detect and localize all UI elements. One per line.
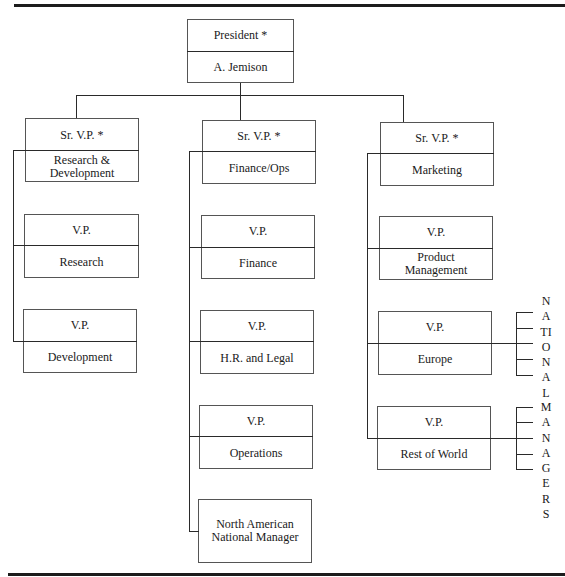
box-name: Research & Development	[26, 152, 138, 182]
connector	[189, 341, 314, 342]
national-label: NATIONAL	[540, 294, 552, 401]
bracket-tick	[516, 343, 533, 344]
box-title: V.P.	[201, 311, 313, 342]
srvp-marketing-box: Sr. V.P. * Marketing	[380, 122, 494, 186]
box-title: Sr. V.P. *	[381, 123, 493, 154]
spine-marketing	[367, 153, 368, 439]
connector	[189, 436, 313, 437]
box-name: Marketing	[381, 155, 493, 185]
connector	[13, 245, 139, 246]
box-title: Sr. V.P. *	[203, 121, 315, 152]
box-name: Finance	[202, 248, 314, 278]
bracket-tick	[516, 375, 533, 376]
managers-label: MANAGERS	[540, 400, 552, 522]
connector	[403, 95, 404, 123]
box-name: Operations	[200, 438, 312, 468]
box-name: Development	[24, 342, 136, 372]
bracket-tick	[516, 407, 533, 408]
box-title: V.P.	[378, 407, 490, 438]
spine-rd	[13, 150, 139, 151]
box-name: Product Management	[380, 249, 492, 279]
spine-rd	[13, 150, 14, 342]
top-rule	[14, 4, 565, 7]
connector	[189, 531, 199, 532]
bracket-tick	[516, 312, 533, 313]
president-box: President * A. Jemison	[187, 19, 294, 83]
box-title: V.P.	[200, 406, 312, 437]
bracket-tick	[516, 422, 533, 423]
connector	[367, 343, 517, 344]
box-name: Rest of World	[378, 439, 490, 469]
president-name: A. Jemison	[188, 52, 293, 82]
bracket-tick	[516, 328, 533, 329]
box-title: Sr. V.P. *	[26, 119, 138, 151]
box-name: Europe	[379, 344, 491, 374]
box-title: V.P.	[24, 310, 136, 341]
vp-hr-legal-box: V.P. H.R. and Legal	[200, 310, 314, 374]
box-name: H.R. and Legal	[201, 343, 313, 373]
connector	[240, 95, 241, 121]
bracket-tick	[516, 454, 533, 455]
connector	[13, 341, 137, 342]
president-title: President *	[188, 20, 293, 51]
box-name: North American National Manager	[199, 500, 311, 562]
box-name: Research	[25, 247, 138, 277]
box-title: V.P.	[25, 215, 138, 246]
bracket-tick	[516, 438, 533, 439]
connector	[367, 438, 517, 439]
na-national-manager-box: North American National Manager	[198, 499, 312, 563]
bracket-tick	[516, 359, 533, 360]
spine-marketing	[367, 153, 494, 154]
connector	[189, 247, 315, 248]
srvp-finops-box: Sr. V.P. * Finance/Ops	[202, 120, 316, 184]
box-title: V.P.	[380, 217, 492, 248]
box-title: V.P.	[379, 312, 491, 343]
bottom-rule	[8, 573, 565, 576]
spine-finops	[189, 151, 316, 152]
connector	[76, 95, 77, 119]
box-name: Finance/Ops	[203, 153, 315, 183]
vp-research-box: V.P. Research	[24, 214, 139, 278]
bracket-tick	[516, 469, 533, 470]
vp-operations-box: V.P. Operations	[199, 405, 313, 469]
box-title: V.P.	[202, 216, 314, 247]
connector	[367, 248, 493, 249]
